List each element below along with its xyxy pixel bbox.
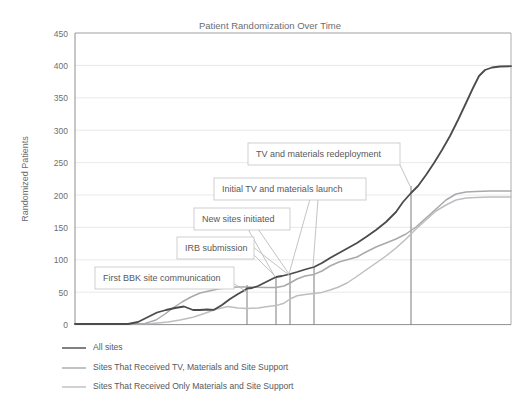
y-tick-0: 0 xyxy=(63,320,68,330)
y-tick-100: 100 xyxy=(54,255,68,265)
y-tick-150: 150 xyxy=(54,223,68,233)
y-tick-200: 200 xyxy=(54,191,68,201)
legend-item-tv-materials-site-support[interactable]: Sites That Received TV, Materials and Si… xyxy=(62,362,289,372)
y-tick-250: 250 xyxy=(54,158,68,168)
callout-first-bbk-communication[interactable]: First BBK site communication xyxy=(95,267,234,289)
y-axis-label: Randomized Patients xyxy=(20,136,30,222)
callout-label-first-bbk-communication: First BBK site communication xyxy=(103,273,221,283)
y-tick-400: 400 xyxy=(54,61,68,71)
legend-item-all-sites[interactable]: All sites xyxy=(62,342,123,352)
callout-label-irb-submission: IRB submission xyxy=(185,243,248,253)
legend-label-tv-materials-site-support: Sites That Received TV, Materials and Si… xyxy=(93,362,289,372)
callout-label-initial-tv-launch: Initial TV and materials launch xyxy=(222,184,342,194)
y-tick-labels: 450 400 350 300 250 200 150 100 50 0 xyxy=(54,29,68,331)
callout-new-sites-initiated[interactable]: New sites initiated xyxy=(194,208,290,230)
callout-irb-submission[interactable]: IRB submission xyxy=(177,237,254,259)
y-tick-450: 450 xyxy=(54,29,68,39)
y-tick-50: 50 xyxy=(59,288,69,298)
callout-initial-tv-launch[interactable]: Initial TV and materials launch xyxy=(214,178,366,200)
chart-legend: All sites Sites That Received TV, Materi… xyxy=(62,342,294,391)
legend-label-all-sites: All sites xyxy=(93,342,123,352)
callout-tv-redeployment[interactable]: TV and materials redeployment xyxy=(248,143,400,165)
callout-label-tv-redeployment: TV and materials redeployment xyxy=(256,149,382,159)
series-line-tv-materials-site-support xyxy=(75,191,511,324)
patient-randomization-chart: Patient Randomization Over Time 450 400 … xyxy=(0,0,530,408)
chart-figure: Patient Randomization Over Time 450 400 … xyxy=(0,0,530,408)
legend-label-materials-site-support: Sites That Received Only Materials and S… xyxy=(93,381,294,391)
callout-label-new-sites-initiated: New sites initiated xyxy=(202,214,275,224)
y-tick-300: 300 xyxy=(54,126,68,136)
y-tick-350: 350 xyxy=(54,93,68,103)
legend-item-materials-site-support[interactable]: Sites That Received Only Materials and S… xyxy=(62,381,294,391)
chart-title: Patient Randomization Over Time xyxy=(199,20,341,31)
